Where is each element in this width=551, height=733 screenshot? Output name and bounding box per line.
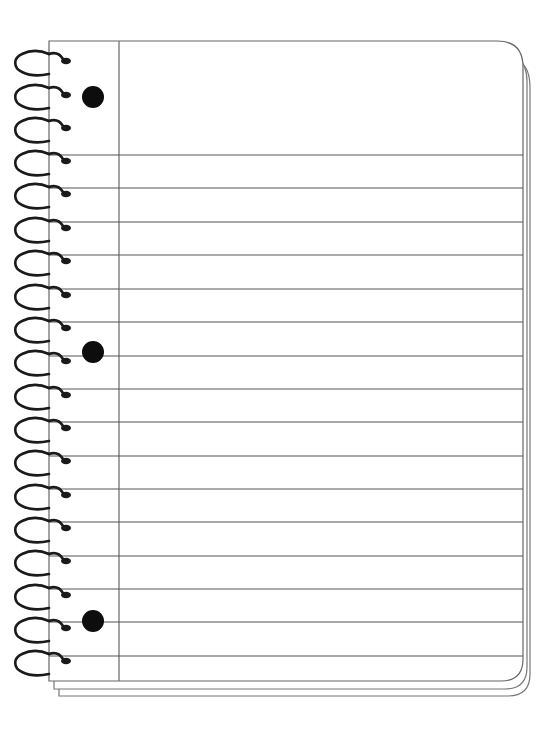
punch-hole-bottom	[82, 610, 104, 632]
punch-hole-middle	[82, 341, 104, 363]
spiral-notebook	[0, 0, 551, 733]
punch-hole-top	[82, 86, 104, 108]
notebook-page	[49, 41, 523, 681]
